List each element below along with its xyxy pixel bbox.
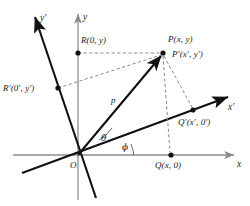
x-prime-axis-label: x′ (228, 103, 235, 113)
point-q-prime-label: Q′(x′, 0′) (178, 118, 210, 127)
angle-phi-arc (131, 144, 134, 155)
dot-point-q (168, 152, 173, 157)
vector-p (78, 56, 161, 155)
dashed-p-to-q (163, 56, 170, 152)
x-axis-label: x (237, 160, 241, 170)
origin-label: O (70, 161, 77, 170)
y-axis-label: y (83, 13, 87, 23)
dot-point-r-prime (55, 85, 60, 90)
point-p-prime-label: P′(x′, y′) (172, 50, 203, 59)
dot-point-r (75, 50, 80, 55)
vector-p-label: p (111, 96, 116, 105)
dashed-p-to-qprime (164, 56, 193, 109)
angle-phi-label: ϕ (122, 143, 128, 152)
angle-theta-label: θ (101, 134, 107, 143)
y-prime-axis-label: y′ (40, 14, 47, 24)
coordinate-rotation-figure: x y x′ y′ O P(x, y) P′(x′, y′) Q(x, 0) Q… (0, 0, 250, 206)
point-p-label: P(x, y) (168, 35, 193, 44)
dot-point-p (160, 50, 165, 55)
figure-canvas (0, 0, 250, 206)
point-q-label: Q(x, 0) (155, 161, 181, 170)
dot-point-q-prime (190, 107, 195, 112)
point-r-prime-label: R′(0′, y′) (3, 84, 34, 93)
dashed-rprime-to-p (58, 55, 161, 88)
point-r-label: R(0, y) (81, 36, 106, 45)
x-prime-axis (22, 97, 228, 173)
